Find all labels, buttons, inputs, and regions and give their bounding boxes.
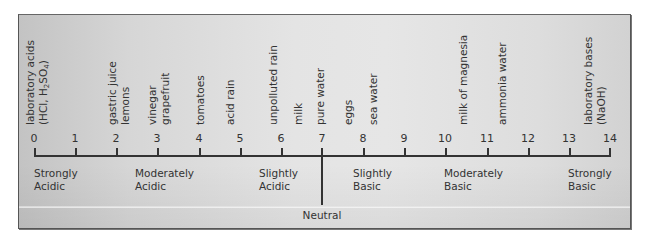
tick-0 <box>34 148 36 156</box>
neutral-label: Neutral <box>291 209 353 221</box>
separator-line <box>19 206 630 208</box>
tick-label-14: 14 <box>598 132 622 145</box>
tick-label-3: 3 <box>145 132 169 145</box>
ph-scale-panel: laboratory acids (HCl, H2SO4) gastric ju… <box>18 14 631 229</box>
tick-label-4: 4 <box>187 132 211 145</box>
range-moderately-acidic: ModeratelyAcidic <box>135 167 194 193</box>
tick-label-5: 5 <box>228 132 252 145</box>
tick-label-2: 2 <box>104 132 128 145</box>
ph-axis-line <box>34 155 611 157</box>
tick-label-9: 9 <box>392 132 416 145</box>
tick-3 <box>157 148 159 156</box>
range-moderately-basic: ModeratelyBasic <box>444 167 503 193</box>
tick-label-10: 10 <box>433 132 457 145</box>
range-slightly-acidic: SlightlyAcidic <box>259 167 298 193</box>
tick-8 <box>363 148 365 156</box>
tick-label-7: 7 <box>310 132 334 145</box>
range-strongly-basic: StronglyBasic <box>568 167 612 193</box>
tick-14 <box>609 148 611 156</box>
tick-label-12: 12 <box>516 132 540 145</box>
tick-label-1: 1 <box>63 132 87 145</box>
tick-label-11: 11 <box>475 132 499 145</box>
tick-label-6: 6 <box>269 132 293 145</box>
tick-1 <box>75 148 77 156</box>
neutral-marker-line <box>321 148 323 205</box>
tick-9 <box>404 148 406 156</box>
tick-2 <box>116 148 118 156</box>
tick-5 <box>240 148 242 156</box>
tick-label-0: 0 <box>22 132 46 145</box>
tick-12 <box>528 148 530 156</box>
tick-label-8: 8 <box>351 132 375 145</box>
tick-11 <box>487 148 489 156</box>
tick-6 <box>281 148 283 156</box>
tick-4 <box>199 148 201 156</box>
tick-13 <box>569 148 571 156</box>
tick-label-13: 13 <box>557 132 581 145</box>
range-strongly-acidic: StronglyAcidic <box>34 167 78 193</box>
range-slightly-basic: SlightlyBasic <box>353 167 392 193</box>
tick-10 <box>445 148 447 156</box>
